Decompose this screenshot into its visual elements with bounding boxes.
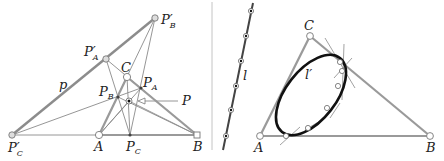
left-panel: P′B P′A C PA PB P p P′C A PC B (7, 12, 203, 158)
points-left (9, 15, 200, 139)
label-line-l: l (243, 68, 247, 83)
label-pa: PA (142, 75, 158, 92)
point-pc (128, 133, 131, 136)
label-pb-prime: P′B (160, 12, 176, 30)
point-a (95, 131, 102, 138)
label-b: B (192, 139, 203, 154)
right-panel: l l′ C (223, 3, 436, 155)
point-b-right (427, 133, 434, 140)
label-line-p: p (59, 77, 68, 92)
line-pc-prime-pa (12, 88, 141, 135)
point-b (194, 132, 200, 138)
tangent-lines (280, 38, 355, 145)
label-c: C (121, 60, 131, 75)
label-b-right: B (425, 140, 436, 155)
projective-geometry-diagram: P′B P′A C PA PB P p P′C A PC B l (0, 0, 444, 161)
construction-lines (12, 18, 197, 135)
point-pb-prime (152, 15, 158, 21)
label-pc-prime: P′C (7, 140, 23, 158)
point-pc-prime (9, 132, 15, 138)
side-cb-right (310, 36, 430, 136)
label-pb: PB (98, 84, 114, 101)
conic-l-prime (262, 43, 359, 148)
label-c-right: C (304, 18, 314, 33)
point-pb (116, 95, 119, 98)
label-a: A (93, 139, 103, 154)
arrow-p-icon (138, 98, 145, 104)
label-p: P (181, 93, 191, 108)
label-conic-l-prime: l′ (305, 67, 312, 82)
point-p (128, 100, 131, 103)
side-ac-right (260, 36, 310, 136)
label-a-right: A (253, 140, 263, 155)
line-l (223, 3, 253, 150)
point-c-right (307, 33, 314, 40)
label-pa-prime: P′A (83, 44, 99, 62)
label-pc: PC (125, 139, 141, 156)
point-pa-prime (103, 56, 109, 62)
point-a-right (257, 133, 264, 140)
